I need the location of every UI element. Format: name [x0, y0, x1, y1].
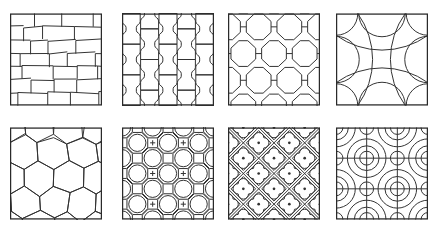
curved-bowtie-pavers-drawing — [336, 13, 428, 106]
paving-pattern-catalog — [0, 0, 435, 229]
octagon-circle-inlay-drawing — [122, 127, 214, 220]
pattern-swatch-irregular-hexagon-pavers — [10, 127, 102, 220]
breeze-block-quarter-arcs-drawing — [336, 127, 428, 220]
pattern-swatch-uni-decor-octagon-pavers — [228, 13, 320, 106]
pattern-swatch-octagon-circle-inlay — [122, 127, 214, 220]
uni-decor-octagon-pavers-frame — [229, 14, 320, 105]
breeze-block-quarter-arcs-frame — [337, 128, 428, 219]
pattern-swatch-breeze-block-quarter-arcs — [336, 127, 428, 220]
pattern-swatch-i-shaped-interlocking-pavers — [122, 13, 214, 106]
diamond-quatrefoil-tiles-drawing — [228, 127, 320, 220]
uni-decor-octagon-pavers-drawing — [228, 13, 320, 106]
irregular-running-bond-brick-drawing — [10, 13, 102, 106]
pattern-swatch-diamond-quatrefoil-tiles — [228, 127, 320, 220]
irregular-hexagon-pavers-drawing — [10, 127, 102, 220]
pattern-swatch-irregular-running-bond-brick — [10, 13, 102, 106]
octagon-circle-inlay-frame — [123, 128, 214, 219]
pattern-swatch-curved-bowtie-pavers — [336, 13, 428, 106]
i-shaped-interlocking-pavers-drawing — [122, 13, 214, 106]
curved-bowtie-pavers-frame — [337, 14, 428, 105]
